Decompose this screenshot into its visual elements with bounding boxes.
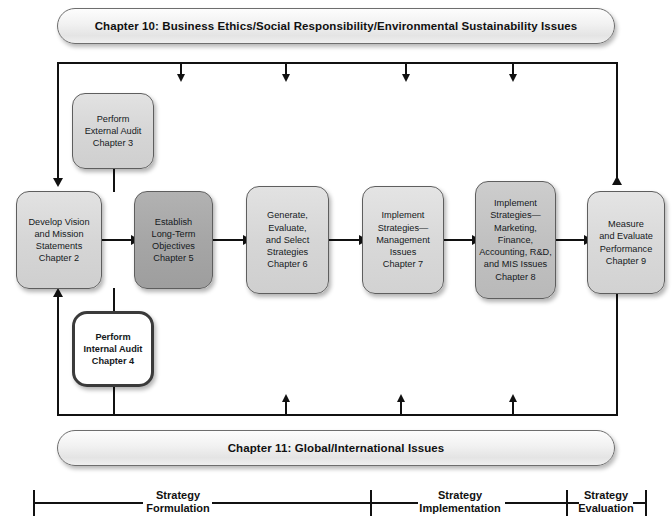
top-feedback-bus-line: [57, 62, 618, 64]
process-box-measure-evaluate-label: Measure and Evaluate Performance Chapter…: [596, 218, 656, 267]
process-box-generate-select-strategies[interactable]: Generate, Evaluate, and Select Strategie…: [246, 186, 329, 294]
process-box-implement-management-label: Implement Strategies— Management Issues …: [373, 209, 433, 270]
chapter-banner-top: Chapter 10: Business Ethics/Social Respo…: [57, 8, 615, 44]
flow-line-functional-to-measure: [555, 239, 587, 241]
process-box-external-audit-label: Perform External Audit Chapter 3: [82, 113, 145, 150]
flow-line-management-to-functional: [443, 239, 475, 241]
arrow-bottom-stub-3: [509, 394, 517, 402]
bottom-stub-3: [512, 400, 514, 415]
ruler-seg-implementation-left: [370, 502, 418, 504]
phase-label-strategy-formulation: Strategy Formulation: [143, 489, 213, 515]
top-bus-right-riser: [616, 62, 618, 184]
process-box-internal-audit-label: Perform Internal Audit Chapter 4: [81, 331, 146, 368]
phase-label-strategy-evaluation: Strategy Evaluation: [576, 489, 636, 515]
flow-line-generate-to-management: [328, 239, 362, 241]
process-box-vision-mission-label: Develop Vision and Mission Statements Ch…: [25, 216, 92, 265]
chapter-banner-bottom-label: Chapter 11: Global/International Issues: [228, 442, 445, 454]
flow-line-vision-to-objectives: [101, 239, 134, 241]
arrow-top-stub-3: [402, 74, 410, 82]
arrow-top-stub-2: [282, 74, 290, 82]
vision-to-internal-audit-connector: [113, 288, 115, 312]
process-box-implement-functional[interactable]: Implement Strategies— Marketing, Finance…: [475, 181, 556, 299]
arrow-into-vision-from-top: [53, 178, 63, 187]
process-box-long-term-objectives[interactable]: Establish Long-Term Objectives Chapter 5: [134, 191, 213, 289]
chapter-banner-top-label: Chapter 10: Business Ethics/Social Respo…: [95, 20, 578, 32]
flow-line-objectives-to-generate: [212, 239, 246, 241]
process-box-vision-mission[interactable]: Develop Vision and Mission Statements Ch…: [16, 191, 102, 289]
bottom-stub-1: [285, 400, 287, 415]
process-box-internal-audit[interactable]: Perform Internal Audit Chapter 4: [72, 311, 154, 387]
process-box-long-term-objectives-label: Establish Long-Term Objectives Chapter 5: [149, 216, 199, 265]
process-box-generate-select-strategies-label: Generate, Evaluate, and Select Strategie…: [263, 209, 312, 270]
bottom-bus-left-riser: [57, 292, 59, 416]
chapter-banner-bottom: Chapter 11: Global/International Issues: [57, 430, 615, 466]
bottom-feedback-bus-line: [57, 414, 618, 416]
arrow-bottom-stub-2: [397, 394, 405, 402]
ruler-seg-formulation-left: [33, 502, 143, 504]
bottom-bus-right-drop: [616, 292, 618, 416]
arrow-bottom-stub-1: [282, 394, 290, 402]
top-bus-left-drop: [57, 62, 59, 184]
process-box-measure-evaluate[interactable]: Measure and Evaluate Performance Chapter…: [587, 191, 665, 294]
phase-ruler: Strategy Formulation Strategy Implementa…: [0, 480, 672, 526]
arrow-up-into-measure-box: [612, 176, 622, 185]
process-box-external-audit[interactable]: Perform External Audit Chapter 3: [72, 93, 154, 169]
bottom-stub-2: [400, 400, 402, 415]
ruler-seg-implementation-right: [505, 502, 567, 504]
arrow-top-stub-1: [177, 74, 185, 82]
ruler-seg-formulation-right: [212, 502, 371, 504]
arrow-top-stub-4: [509, 74, 517, 82]
strategic-management-model-diagram: Chapter 10: Business Ethics/Social Respo…: [0, 0, 672, 526]
process-box-implement-functional-label: Implement Strategies— Marketing, Finance…: [476, 197, 555, 282]
phase-label-strategy-implementation: Strategy Implementation: [413, 489, 507, 515]
process-box-implement-management[interactable]: Implement Strategies— Management Issues …: [362, 186, 444, 294]
external-audit-to-vision-connector: [113, 168, 115, 192]
arrow-up-into-vision-box: [53, 288, 63, 297]
